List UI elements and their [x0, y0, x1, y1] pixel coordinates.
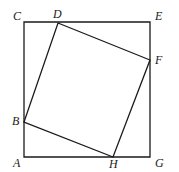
vertex-label-f: F [155, 54, 162, 66]
vertex-label-b: B [12, 115, 19, 127]
vertex-label-c: C [13, 10, 21, 22]
vertex-label-a: A [13, 157, 20, 169]
vertex-label-e: E [155, 10, 162, 22]
geometry-figure: C D E F G H A B [0, 0, 179, 172]
vertex-label-g: G [155, 157, 164, 169]
figure-background [0, 0, 179, 172]
vertex-label-h: H [109, 158, 118, 170]
geometry-canvas [0, 0, 179, 172]
vertex-label-d: D [53, 8, 62, 20]
